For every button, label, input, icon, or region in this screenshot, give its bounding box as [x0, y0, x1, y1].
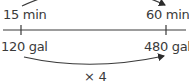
multiplier-label: × 4 — [84, 70, 106, 83]
bottom-label-left: 120 gal — [1, 40, 48, 53]
top-label-left: 15 min — [3, 8, 46, 21]
top-multiplier-arrow — [22, 0, 165, 6]
top-label-right: 60 min — [146, 8, 189, 21]
bottom-multiplier-arrow — [24, 56, 164, 64]
bottom-label-right: 480 gal — [144, 40, 189, 53]
